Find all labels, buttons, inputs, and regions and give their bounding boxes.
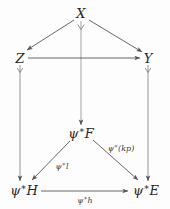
node-y[interactable]: Y <box>144 52 153 65</box>
edge-label-psi-star-h: ψ∗h <box>77 195 93 206</box>
node-psi-star-f[interactable]: ψ∗F <box>68 126 93 140</box>
edge-label-text: l <box>66 162 69 171</box>
node-x-label: X <box>76 6 85 21</box>
arrow-x-to-y <box>89 20 142 52</box>
edge-label-text: h <box>88 196 93 205</box>
node-z-label: Z <box>15 51 24 66</box>
diagram-arrows-layer <box>0 0 170 209</box>
node-psi-star-h[interactable]: ψ∗H <box>10 183 38 197</box>
commutative-diagram: X Z Y ψ∗F ψ∗H ψ∗E ψ∗l ψ∗(kp) ψ∗h <box>0 0 170 209</box>
node-z[interactable]: Z <box>15 52 24 65</box>
node-psi-star-h-label: H <box>26 183 37 198</box>
arrow-x-to-z <box>27 20 74 50</box>
node-y-label: Y <box>144 51 153 66</box>
node-psi-star-e[interactable]: ψ∗E <box>133 183 159 197</box>
psi-symbol: ψ <box>68 126 78 141</box>
edge-label-psi-star-kp: ψ∗(kp) <box>108 143 135 154</box>
node-psi-star-e-label: E <box>149 183 159 198</box>
psi-symbol: ψ <box>133 183 143 198</box>
edge-label-text: (kp) <box>118 144 134 153</box>
psi-symbol: ψ <box>10 183 20 198</box>
edge-label-psi-star-l: ψ∗l <box>56 161 69 172</box>
node-psi-star-f-label: F <box>85 126 94 141</box>
node-x[interactable]: X <box>76 7 85 20</box>
